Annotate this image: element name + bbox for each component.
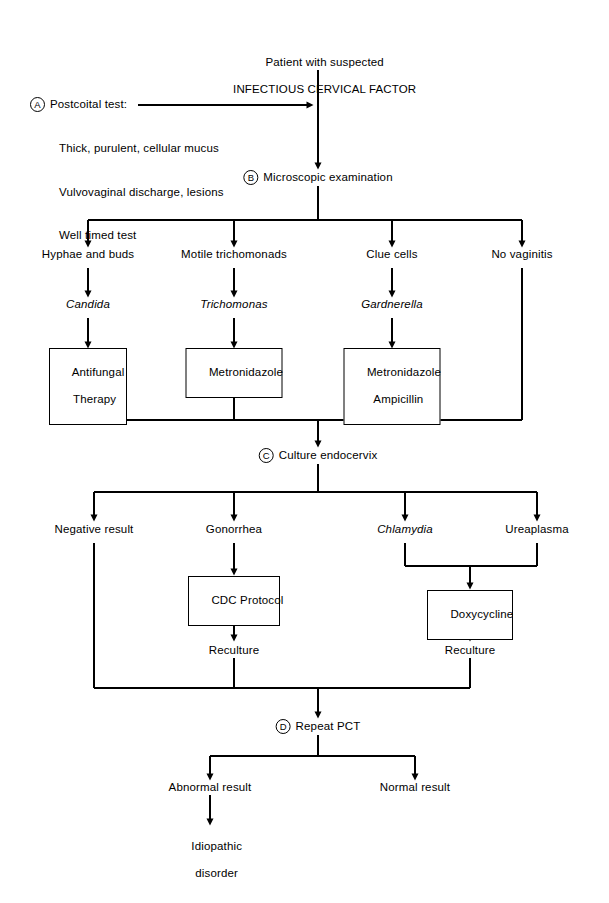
treatment-combo-line-1: Metronidazole xyxy=(367,366,441,378)
organism-trichomonas: Trichomonas xyxy=(200,298,267,312)
title-line-1: Patient with suspected xyxy=(266,56,384,68)
treatment-combo-line-2: Ampicillin xyxy=(373,393,423,405)
diagram-title: Patient with suspected INFECTIOUS CERVIC… xyxy=(220,42,417,110)
treatment-antifungal-line-1: Antifungal xyxy=(72,366,125,378)
cdc-protocol-label: CDC Protocol xyxy=(211,594,283,606)
outcome-normal-result: Normal result xyxy=(380,781,450,795)
treatment-box-antifungal[interactable]: Antifungal Therapy xyxy=(49,348,127,425)
gonorrhea-reculture: Reculture xyxy=(209,644,260,658)
step-d[interactable]: D Repeat PCT xyxy=(276,719,361,734)
final-outcome-line-2: disorder xyxy=(195,867,238,879)
doxycycline-label: Doxycycline xyxy=(450,608,513,620)
treatment-antifungal-line-2: Therapy xyxy=(73,393,116,405)
step-c[interactable]: C Culture endocervix xyxy=(259,448,378,463)
finding-no-vaginitis: No vaginitis xyxy=(491,248,552,262)
finding-hyphae: Hyphae and buds xyxy=(42,248,134,262)
finding-trichomonads: Motile trichomonads xyxy=(181,248,287,262)
organism-candida: Candida xyxy=(66,298,110,312)
final-outcome-idiopathic-disorder: Idiopathic disorder xyxy=(178,826,242,894)
treatment-box-metronidazole-ampicillin[interactable]: Metronidazole Ampicillin xyxy=(344,348,441,425)
step-a-detail-3: Well timed test xyxy=(59,228,224,243)
step-b-marker: B xyxy=(243,170,258,185)
step-a[interactable]: A Postcoital test: xyxy=(30,97,127,112)
culture-negative-result: Negative result xyxy=(55,523,134,537)
step-a-detail-2: Vulvovaginal discharge, lesions xyxy=(59,185,224,200)
chlamydia-reculture: Reculture xyxy=(445,644,496,658)
culture-chlamydia: Chlamydia xyxy=(377,523,433,537)
step-a-marker: A xyxy=(30,97,45,112)
final-outcome-line-1: Idiopathic xyxy=(191,840,242,852)
step-d-label: Repeat PCT xyxy=(296,719,361,733)
culture-gonorrhea: Gonorrhea xyxy=(206,523,262,537)
finding-clue-cells: Clue cells xyxy=(366,248,417,262)
outcome-abnormal-result: Abnormal result xyxy=(169,781,252,795)
culture-ureaplasma: Ureaplasma xyxy=(505,523,569,537)
step-d-marker: D xyxy=(276,719,291,734)
step-c-label: Culture endocervix xyxy=(279,448,378,462)
treatment-box-cdc-protocol[interactable]: CDC Protocol xyxy=(188,576,280,626)
step-a-detail-1: Thick, purulent, cellular mucus xyxy=(59,141,224,156)
step-a-label: Postcoital test: xyxy=(50,97,127,111)
organism-gardnerella: Gardnerella xyxy=(361,298,423,312)
step-b[interactable]: B Microscopic examination xyxy=(243,170,392,185)
treatment-box-doxycycline[interactable]: Doxycycline xyxy=(427,590,513,640)
step-b-label: Microscopic examination xyxy=(263,170,392,184)
flowchart-canvas: Patient with suspected INFECTIOUS CERVIC… xyxy=(0,0,609,903)
title-line-2: INFECTIOUS CERVICAL FACTOR xyxy=(233,83,416,95)
step-c-marker: C xyxy=(259,448,274,463)
treatment-metronidazole-line-1: Metronidazole xyxy=(209,366,283,378)
treatment-box-metronidazole[interactable]: Metronidazole xyxy=(186,348,283,398)
